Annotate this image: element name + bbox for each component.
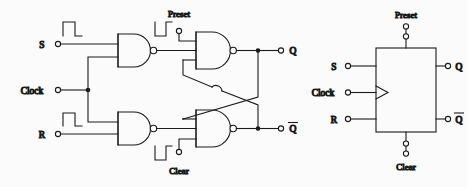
- output-label-qbar: Q: [290, 124, 297, 134]
- diagram-canvas: S Clock R: [0, 0, 467, 187]
- block-output-label-qbar: Q: [456, 115, 463, 125]
- input-label-clear: Clear: [169, 166, 189, 176]
- block-input-label-clock: Clock: [312, 88, 335, 98]
- block-output-label-q: Q: [456, 62, 463, 72]
- output-label-q: Q: [290, 46, 297, 56]
- block-input-label-preset: Preset: [395, 10, 417, 20]
- block-symbol-body: [376, 48, 436, 132]
- input-label-preset: Preset: [168, 9, 190, 19]
- input-label-r: R: [39, 130, 46, 140]
- input-label-s: S: [39, 40, 44, 50]
- block-input-label-r: R: [331, 115, 338, 125]
- block-input-label-s: S: [331, 62, 336, 72]
- block-input-label-clear: Clear: [396, 162, 416, 172]
- input-label-clock: Clock: [21, 86, 44, 96]
- circuit-diagram-figure: S Clock R: [0, 0, 467, 187]
